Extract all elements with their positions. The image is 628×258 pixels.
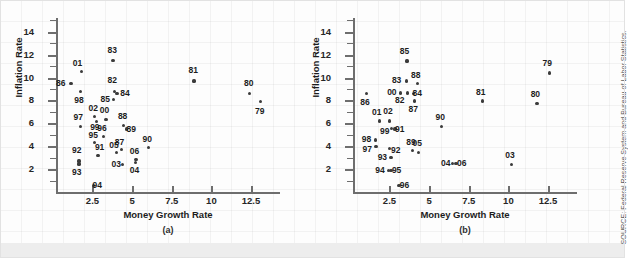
data-point — [112, 98, 115, 101]
y-axis-tick — [48, 78, 56, 80]
data-point-label: 80 — [244, 78, 253, 88]
data-point — [115, 92, 118, 95]
data-point — [416, 82, 419, 85]
x-axis-tick-label: 5 — [117, 195, 147, 206]
y-axis-tick — [345, 100, 353, 102]
source-note-text: SOURCE: Federal Reserve System and Burea… — [619, 5, 628, 245]
x-axis-line — [353, 192, 577, 194]
data-point — [405, 79, 408, 82]
x-axis-tick — [429, 186, 431, 194]
data-point-label: 98 — [74, 95, 83, 105]
data-point — [134, 158, 137, 161]
panel-caption: (b) — [353, 225, 577, 235]
x-axis-tick — [469, 186, 471, 194]
data-point — [510, 163, 513, 166]
y-axis-tick — [48, 169, 56, 171]
x-axis-tick — [548, 186, 550, 194]
data-point-label: 85 — [100, 94, 109, 104]
data-point-label: 90 — [436, 112, 445, 122]
data-point-label: 80 — [531, 89, 540, 99]
y-axis-title: Inflation Rate — [13, 28, 24, 108]
y-axis-minor-tick — [50, 20, 56, 21]
y-axis-tick-label: 2 — [14, 163, 34, 174]
data-point-label: 83 — [108, 45, 117, 55]
data-point-label: 05 — [413, 138, 422, 148]
data-point — [120, 148, 123, 151]
data-point-label: 06 — [130, 146, 139, 156]
panel-caption: (a) — [56, 225, 280, 235]
data-point — [388, 119, 391, 122]
data-point — [374, 145, 377, 148]
x-axis-tick-label: 7.5 — [454, 195, 484, 206]
data-point-label: 02 — [383, 106, 392, 116]
data-point-label: 02 — [89, 103, 98, 113]
data-point-label: 88 — [411, 70, 420, 80]
y-axis-title: Inflation Rate — [310, 28, 321, 108]
data-point-label: 81 — [188, 65, 197, 75]
data-point-label: 95 — [392, 165, 401, 175]
data-point — [378, 119, 381, 122]
y-axis-minor-tick — [347, 158, 353, 159]
data-point — [374, 138, 377, 141]
data-point — [79, 125, 82, 128]
x-axis-tick — [508, 186, 510, 194]
data-point-label: 92 — [72, 145, 81, 155]
x-axis-tick-label: 10 — [196, 195, 226, 206]
data-point-label: 05 — [109, 140, 118, 150]
y-axis-minor-tick — [50, 158, 56, 159]
data-point-label: 00 — [100, 105, 109, 115]
data-point — [389, 156, 392, 159]
data-point-label: 87 — [409, 104, 418, 114]
y-axis-line — [353, 18, 355, 194]
y-axis-tick-label: 6 — [311, 117, 331, 128]
y-axis-minor-tick — [347, 89, 353, 90]
data-point-label: 84 — [413, 88, 422, 98]
y-axis-tick — [48, 32, 56, 34]
data-point — [93, 115, 96, 118]
data-point — [77, 162, 80, 165]
y-axis-tick-label: 4 — [311, 140, 331, 151]
data-point-label: 79 — [543, 58, 552, 68]
y-axis-minor-tick — [50, 135, 56, 136]
y-axis-minor-tick — [50, 112, 56, 113]
data-point-label: 91 — [95, 142, 104, 152]
data-point — [413, 99, 416, 102]
data-point — [121, 163, 124, 166]
x-axis-tick-label: 5 — [414, 195, 444, 206]
data-point — [79, 90, 82, 93]
y-axis-minor-tick — [50, 89, 56, 90]
data-point-label: 79 — [255, 106, 264, 116]
data-point — [405, 59, 408, 62]
y-axis-tick — [48, 146, 56, 148]
data-point — [535, 102, 538, 105]
y-axis-minor-tick — [50, 181, 56, 182]
data-point-label: 98 — [362, 134, 371, 144]
data-point — [411, 149, 414, 152]
data-point-label: 04 — [441, 158, 450, 168]
data-point — [134, 161, 137, 164]
x-axis-line — [56, 192, 280, 194]
data-point — [481, 99, 484, 102]
scatter-chart-a: 24681012142.557.51012.5Inflation RateMon… — [4, 4, 300, 239]
y-axis-tick — [345, 123, 353, 125]
source-note: SOURCE: Federal Reserve System and Burea… — [601, 0, 623, 257]
y-axis-tick-label: 4 — [14, 140, 34, 151]
y-axis-tick — [345, 146, 353, 148]
data-point — [548, 71, 551, 74]
data-point — [192, 79, 195, 82]
y-axis-tick — [345, 55, 353, 57]
data-point — [80, 70, 83, 73]
x-axis-title: Money Growth Rate — [353, 209, 577, 220]
x-axis-title: Money Growth Rate — [56, 209, 280, 220]
data-point — [248, 92, 251, 95]
x-axis-tick — [251, 186, 253, 194]
data-point-label: 04 — [130, 165, 139, 175]
y-axis-tick-label: 6 — [14, 117, 34, 128]
data-point-label: 90 — [142, 134, 151, 144]
data-point-label: 94 — [93, 180, 102, 190]
x-axis-tick-label: 7.5 — [157, 195, 187, 206]
y-axis-minor-tick — [347, 20, 353, 21]
data-point — [96, 154, 99, 157]
data-point-label: 92 — [391, 145, 400, 155]
data-point-label: 96 — [400, 180, 409, 190]
